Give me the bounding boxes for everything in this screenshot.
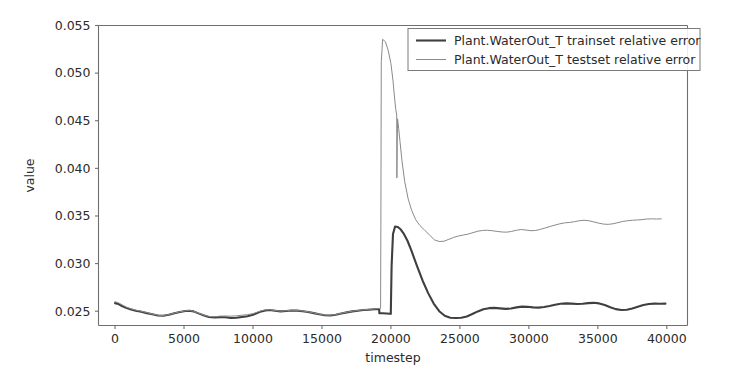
y-axis-title: value [22,158,37,192]
y-tick-label: 0.050 [55,65,91,80]
x-tick-label: 15000 [302,331,342,346]
chart-legend: Plant.WaterOut_T trainset relative error… [408,29,701,71]
line-chart: 0.0250.0300.0350.0400.0450.0500.055 0500… [0,0,756,386]
x-tick-label: 25000 [440,331,480,346]
x-tick-label: 5000 [168,331,200,346]
y-tick-label: 0.035 [55,208,91,223]
x-tick-label: 0 [111,331,119,346]
x-axis-title: timestep [365,350,420,365]
y-tick-label: 0.030 [55,256,91,271]
y-tick-label: 0.055 [55,18,91,33]
legend-label-testset: Plant.WaterOut_T testset relative error [454,52,696,67]
x-tick-label: 35000 [578,331,618,346]
y-tick-label: 0.040 [55,161,91,176]
y-tick-label: 0.025 [55,304,91,319]
x-tick-label: 10000 [233,331,273,346]
x-tick-label: 20000 [371,331,411,346]
legend-label-trainset: Plant.WaterOut_T trainset relative error [454,33,701,48]
x-tick-label: 40000 [647,331,687,346]
y-tick-label: 0.045 [55,113,91,128]
x-tick-label: 30000 [509,331,549,346]
figure-canvas: 0.0250.0300.0350.0400.0450.0500.055 0500… [0,0,756,386]
